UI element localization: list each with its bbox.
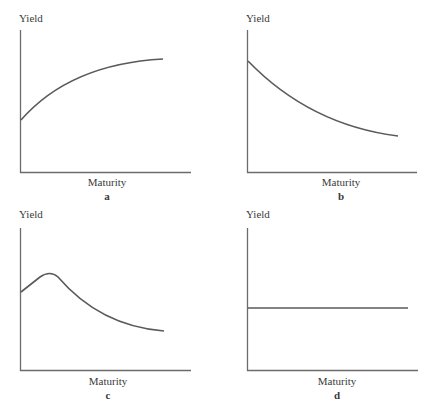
chart-panel-d: Yield Maturity d: [0, 0, 214, 205]
panel-caption: d: [317, 389, 357, 401]
chart-plot: [0, 0, 429, 411]
x-axis-label: Maturity: [277, 375, 397, 387]
